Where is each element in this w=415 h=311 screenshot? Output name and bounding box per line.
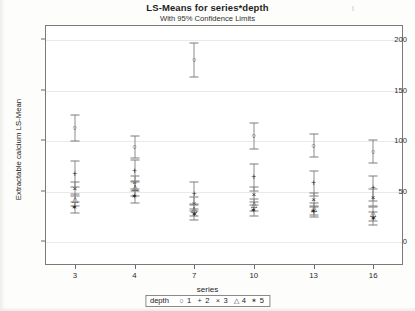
x-axis-label: series [0,285,415,294]
confidence-interval-cap [249,215,258,216]
y-tick-mark [41,89,45,90]
legend-entry-depth-3: ×3 [214,297,227,305]
confidence-interval-cap [369,206,378,207]
plot-area [45,25,403,265]
confidence-interval-cap [130,135,139,136]
legend-entry-depth-2: +2 [196,297,209,305]
data-point-marker-depth-1: ○ [130,143,140,150]
y-tick-mark [41,190,45,191]
x-tick-mark [373,265,374,269]
data-point-marker-depth-1: ○ [189,57,199,64]
confidence-interval-cap [70,141,79,142]
y-tick-mark [41,39,45,40]
data-point-marker-depth-1: ○ [70,124,80,131]
confidence-interval-cap [190,196,199,197]
legend-marker-icon: △ [233,297,240,304]
confidence-interval-cap [130,176,139,177]
legend-entry-depth-1: ○1 [178,297,191,305]
confidence-interval-cap [190,182,199,183]
data-point-marker-depth-2: + [70,170,80,179]
data-point-marker-depth-5: ✶ [309,208,319,216]
chart-page: LS-Means for series*depth With 95% Confi… [0,0,415,311]
data-point-marker-depth-2: + [309,179,319,188]
x-tick-label: 13 [309,271,318,280]
x-tick-mark [135,265,136,269]
confidence-interval-cap [130,158,139,159]
y-tick-label: 100 [394,136,407,145]
chart-subtitle: With 95% Confidence Limits [0,14,415,23]
confidence-interval-cap [249,122,258,123]
y-axis-label: Extractable calcium LS-Mean [14,70,23,230]
gridline [46,192,402,193]
gridline [46,141,402,142]
confidence-interval-cap [369,211,378,212]
y-tick-mark [41,241,45,242]
data-point-marker-depth-2: + [249,173,259,182]
legend-entry-label: 3 [223,297,227,305]
data-point-marker-depth-5: ✶ [249,207,259,215]
chart-title: LS-Means for series*depth [0,2,415,13]
confidence-interval-cap [309,216,318,217]
confidence-interval-cap [249,149,258,150]
data-point-marker-depth-5: ✶ [189,211,199,219]
y-tick-mark [41,140,45,141]
confidence-interval-cap [130,189,139,190]
confidence-interval-cap [130,160,139,161]
confidence-interval-cap [309,192,318,193]
confidence-interval-cap [130,181,139,182]
confidence-interval-cap [369,189,378,190]
legend-entry-label: 5 [260,297,264,305]
data-point-marker-depth-5: ✶ [70,204,80,212]
legend-marker-icon: + [196,297,203,304]
y-tick-label: 150 [394,85,407,94]
data-point-marker-depth-1: ○ [249,132,259,139]
x-tick-label: 3 [73,271,77,280]
confidence-interval-cap [309,133,318,134]
legend-entry-depth-5: ✶5 [251,297,264,305]
x-tick-mark [314,265,315,269]
confidence-interval-cap [70,212,79,213]
confidence-interval-cap [309,171,318,172]
confidence-interval-cap [70,114,79,115]
confidence-interval-cap [369,224,378,225]
x-tick-label: 10 [249,271,258,280]
gridline [46,242,402,243]
legend-title: depth [150,297,169,305]
confidence-interval-cap [70,182,79,183]
legend-marker-icon: × [214,297,221,304]
legend-entry-depth-4: △4 [233,297,246,305]
legend-entry-label: 2 [205,297,209,305]
data-point-marker-depth-3: × [368,194,378,202]
confidence-interval-cap [309,157,318,158]
x-tick-mark [75,265,76,269]
data-point-marker-depth-1: ○ [368,148,378,155]
data-point-marker-depth-5: ✶ [368,215,378,223]
confidence-interval-cap [369,163,378,164]
scan-edge-artifact-left [0,0,5,311]
x-tick-label: 7 [192,271,196,280]
data-point-marker-depth-1: ○ [309,142,319,149]
legend: depth ○1+2×3△4✶5 [145,295,270,307]
legend-marker-icon: ✶ [251,297,258,304]
confidence-interval-cap [190,77,199,78]
confidence-interval-cap [249,164,258,165]
legend-marker-icon: ○ [178,297,185,304]
confidence-interval-cap [190,219,199,220]
data-point-marker-depth-5: ✶ [130,193,140,201]
confidence-interval-cap [369,140,378,141]
confidence-interval-cap [190,43,199,44]
confidence-interval-cap [249,187,258,188]
data-point-marker-depth-2: + [130,167,140,176]
legend-entry-label: 4 [242,297,246,305]
x-tick-mark [254,265,255,269]
y-tick-label: 200 [394,35,407,44]
confidence-interval-cap [130,202,139,203]
x-tick-label: 16 [369,271,378,280]
confidence-interval-cap [369,176,378,177]
legend-entry-label: 1 [187,297,191,305]
gridline [46,91,402,92]
gridline [46,40,402,41]
x-tick-label: 4 [132,271,136,280]
y-tick-label: 50 [399,186,407,195]
x-tick-mark [194,265,195,269]
